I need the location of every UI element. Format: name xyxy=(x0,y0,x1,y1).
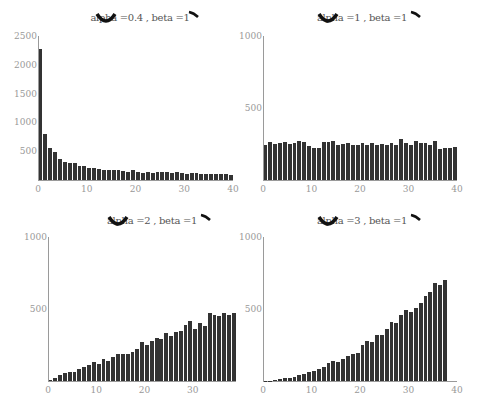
histogram-bar xyxy=(385,145,389,180)
arc-mark-icon xyxy=(107,215,129,227)
stroke-mark-icon xyxy=(200,214,212,222)
histogram-bar xyxy=(58,159,62,180)
x-tick-label: 20 xyxy=(354,385,365,395)
histogram-bar xyxy=(370,143,374,180)
histogram-bar xyxy=(327,142,331,180)
histogram-bar xyxy=(317,148,321,180)
histogram-bar xyxy=(409,145,413,180)
y-tick-label: 1000 xyxy=(24,232,48,242)
histogram-bar xyxy=(404,310,408,381)
histogram-bar xyxy=(97,364,101,381)
histogram-bar xyxy=(278,143,282,180)
histogram-bar xyxy=(424,143,428,180)
histogram-bar xyxy=(126,172,130,180)
histogram-bar xyxy=(82,367,86,381)
histogram-bar xyxy=(165,172,169,180)
histogram-bar xyxy=(140,342,144,381)
histogram-bar xyxy=(227,315,231,381)
x-tick-label: 40 xyxy=(451,385,462,395)
histogram-bar xyxy=(174,332,178,381)
histogram-bar xyxy=(214,174,218,180)
histogram-bar xyxy=(399,139,403,180)
histogram-bar xyxy=(39,49,43,180)
histogram-bar xyxy=(438,285,442,381)
x-axis-line xyxy=(38,180,233,181)
y-tick-label: 1000 xyxy=(239,232,263,242)
y-tick-label: 2500 xyxy=(14,31,38,41)
x-tick-label: 40 xyxy=(451,184,462,194)
histogram-bar xyxy=(68,372,72,381)
x-tick-label: 20 xyxy=(354,184,365,194)
x-tick-label: 0 xyxy=(45,385,51,395)
histogram-bar xyxy=(180,173,184,180)
histogram-bar xyxy=(195,173,199,180)
histogram-bar xyxy=(141,173,145,180)
histogram-bar xyxy=(102,170,106,180)
histogram-bar xyxy=(331,141,335,180)
y-axis-line xyxy=(263,237,264,381)
histogram-bar xyxy=(193,329,197,381)
histogram-bar xyxy=(341,144,345,180)
histogram-bar xyxy=(102,359,106,381)
histogram-bar xyxy=(106,361,110,381)
histogram-bar xyxy=(346,356,350,381)
histogram-bar xyxy=(365,145,369,180)
histogram-bar xyxy=(159,339,163,381)
x-tick-label: 10 xyxy=(306,184,317,194)
histogram-bar xyxy=(331,361,335,381)
histogram-bar xyxy=(131,170,135,180)
histogram-bar xyxy=(394,145,398,180)
histogram-bar xyxy=(293,143,297,180)
histogram-bar xyxy=(302,142,306,180)
histogram-bar xyxy=(229,175,233,180)
stroke-mark-icon xyxy=(188,11,200,19)
x-tick-label: 30 xyxy=(187,385,198,395)
histogram-bar xyxy=(390,143,394,180)
x-tick-label: 20 xyxy=(130,184,141,194)
histogram-bar xyxy=(222,313,226,381)
y-tick-label: 500 xyxy=(30,304,48,314)
histogram-bar xyxy=(448,148,452,180)
histogram-bar xyxy=(87,365,91,381)
histogram-bar xyxy=(184,325,188,381)
histogram-bar xyxy=(169,336,173,381)
histogram-bar xyxy=(68,163,72,180)
histogram-bar xyxy=(433,141,437,180)
histogram-bar xyxy=(278,379,282,381)
histogram-bar xyxy=(63,162,67,180)
histogram-bar xyxy=(385,329,389,381)
histogram-bar xyxy=(327,363,331,381)
histogram-bar xyxy=(131,352,135,381)
histogram-bar xyxy=(317,369,321,381)
histogram-bar xyxy=(409,312,413,381)
histogram-bar xyxy=(87,168,91,180)
histogram-bar xyxy=(219,174,223,180)
histogram-bar xyxy=(264,145,268,180)
histogram-bar xyxy=(188,321,192,381)
x-tick-label: 40 xyxy=(227,184,238,194)
histogram-bar xyxy=(150,341,154,381)
histogram-bar xyxy=(443,280,447,381)
histogram-bar xyxy=(361,143,365,180)
histogram-bar xyxy=(78,166,82,180)
histogram-bar xyxy=(293,377,297,381)
histogram-bar xyxy=(97,169,101,180)
histogram-bar xyxy=(53,378,57,381)
arc-mark-icon xyxy=(317,215,339,227)
arc-mark-icon xyxy=(95,12,117,24)
histogram-bar xyxy=(49,380,53,381)
histogram-bar xyxy=(375,145,379,180)
histogram-bar xyxy=(351,354,355,381)
x-tick-label: 30 xyxy=(179,184,190,194)
y-tick-label: 500 xyxy=(20,146,38,156)
histogram-bar xyxy=(92,362,96,381)
histogram-bar xyxy=(190,173,194,180)
histogram-bar xyxy=(307,146,311,180)
histogram-bar xyxy=(380,335,384,381)
histogram-bar xyxy=(390,322,394,381)
histogram-bar xyxy=(179,331,183,381)
histogram-bar xyxy=(209,174,213,180)
histogram-bar xyxy=(336,362,340,381)
histogram-bar xyxy=(121,354,125,381)
x-tick-label: 30 xyxy=(403,385,414,395)
